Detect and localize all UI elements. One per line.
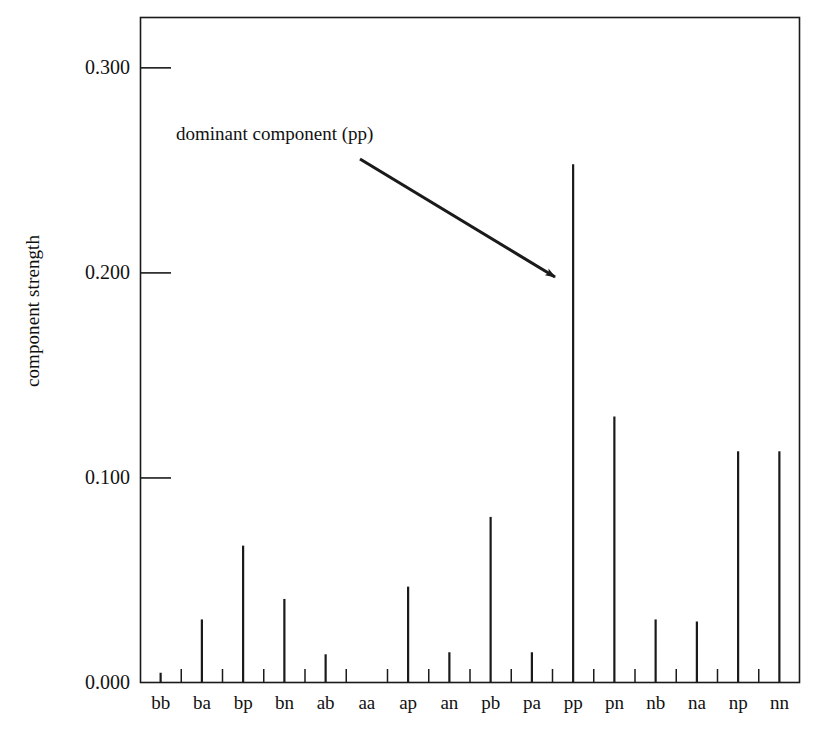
bar-series	[161, 164, 780, 683]
x-axis-tick-marks	[181, 669, 759, 683]
plot-frame	[141, 18, 800, 683]
chart-figure: component strength 0.0000.1000.2000.300 …	[0, 0, 816, 755]
plot-area	[0, 0, 816, 755]
dominant-component-annotation-arrow	[360, 159, 555, 277]
y-axis-tick-marks	[140, 68, 171, 478]
